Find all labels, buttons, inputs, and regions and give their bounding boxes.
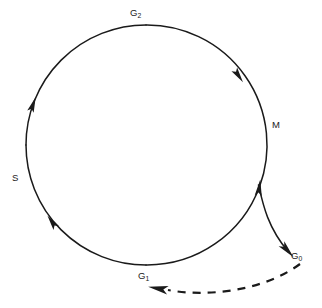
phase-label-g0-subscript: 0	[299, 255, 303, 262]
reentry-path-arrowhead	[147, 282, 168, 294]
phase-label-g0-text: G	[291, 250, 299, 261]
phase-label-g1: G1	[138, 271, 149, 281]
phase-label-s: S	[12, 173, 19, 183]
cycle-direction-arrows	[27, 67, 264, 230]
phase-label-g2-text: G	[130, 7, 138, 18]
phase-label-g1-text: G	[138, 270, 146, 281]
cycle-arc-m-to-g2	[146, 25, 267, 187]
cycle-circle-group	[26, 25, 267, 265]
cycle-arrow-upper-right	[231, 67, 245, 84]
cycle-arc-g1-to-m	[146, 187, 260, 266]
phase-label-g2-subscript: 2	[138, 12, 142, 19]
exit-path-curve	[259, 185, 289, 252]
phase-label-g1-subscript: 1	[146, 275, 150, 282]
phase-label-g0: G0	[291, 251, 302, 261]
cycle-arrow-lower-left	[45, 213, 59, 230]
phase-label-s-text: S	[12, 172, 19, 183]
phase-label-m-text: M	[272, 119, 280, 130]
reentry-path-curve	[168, 264, 300, 293]
phase-label-m: M	[272, 120, 280, 130]
reentry-path-g0-to-g1	[168, 264, 300, 293]
cycle-arc-s-to-g1	[26, 145, 146, 265]
cycle-arrow-upper-left	[27, 96, 39, 113]
cell-cycle-diagram: G2 M S G1 G0	[0, 0, 322, 308]
cycle-arc-g2-to-s	[26, 25, 146, 145]
exit-path-m-to-g0	[259, 185, 289, 252]
phase-label-g2: G2	[130, 8, 141, 18]
cycle-svg-canvas	[0, 0, 322, 308]
